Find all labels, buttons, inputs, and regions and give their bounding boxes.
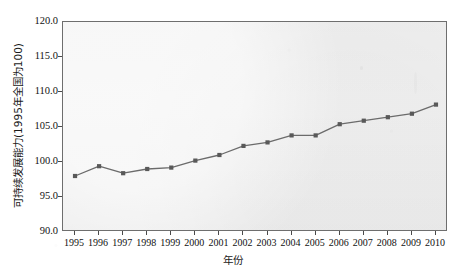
- data-point-marker: [97, 164, 101, 168]
- data-point-marker: [73, 174, 77, 178]
- data-point-marker: [338, 122, 342, 126]
- data-point-marker: [241, 144, 245, 148]
- data-point-marker: [410, 112, 414, 116]
- data-point-marker: [386, 115, 390, 119]
- x-axis-tick-label: 2010: [415, 237, 455, 249]
- data-point-marker: [193, 159, 197, 163]
- data-point-marker: [169, 166, 173, 170]
- y-axis-tick-label: 120.0: [22, 15, 58, 26]
- y-axis-tick-labels: 90.095.0100.0105.0110.0115.0120.0: [20, 0, 58, 279]
- data-point-marker: [289, 133, 293, 137]
- x-axis-title: 年份: [0, 254, 466, 267]
- y-axis-tick-label: 105.0: [22, 120, 58, 131]
- y-axis-tick-label: 110.0: [22, 85, 58, 96]
- data-point-marker: [314, 133, 318, 137]
- data-point-marker: [121, 171, 125, 175]
- y-axis-tick-label: 115.0: [22, 50, 58, 61]
- series-markers: [73, 103, 438, 179]
- data-point-marker: [362, 119, 366, 123]
- data-point-marker: [434, 103, 438, 107]
- y-axis-tick-label: 90.0: [22, 225, 58, 236]
- y-axis-tick-label: 95.0: [22, 190, 58, 201]
- series-line-chart: [63, 22, 448, 232]
- data-point-marker: [217, 153, 221, 157]
- data-point-marker: [265, 140, 269, 144]
- data-point-marker: [145, 167, 149, 171]
- series-line: [75, 105, 436, 176]
- y-axis-tick-label: 100.0: [22, 155, 58, 166]
- chart-figure: 可持续发展能力(1995年全国为100) 90.095.0100.0105.01…: [0, 0, 466, 279]
- plot-area: [62, 21, 447, 231]
